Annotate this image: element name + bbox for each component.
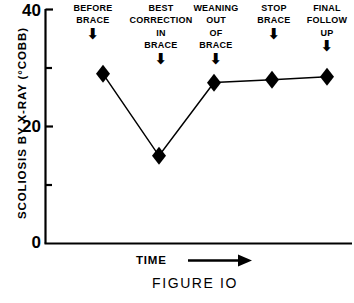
annotation-before-brace: BEFORE BRACE ⬇	[62, 2, 124, 41]
annotation-label: STOP BRACE	[246, 2, 302, 27]
time-arrow-icon	[188, 255, 252, 267]
figure-caption: FIGURE IO	[0, 275, 354, 291]
data-point-marker	[265, 71, 279, 89]
down-arrow-icon: ⬇	[190, 53, 242, 66]
annotation-label: BEFORE BRACE	[62, 2, 124, 27]
annotation-stop-brace: STOP BRACE ⬇	[246, 2, 302, 41]
annotation-final-follow-up: FINAL FOLLOW UP ⬇	[300, 2, 354, 53]
x-axis-title: TIME	[136, 254, 167, 266]
down-arrow-icon: ⬇	[122, 53, 200, 66]
down-arrow-icon: ⬇	[246, 28, 302, 41]
data-point-marker	[320, 68, 334, 86]
annotation-label: WEANING OUT OF BRACE	[190, 2, 242, 52]
annotation-weaning-out-of-brace: WEANING OUT OF BRACE ⬇	[190, 2, 242, 66]
down-arrow-icon: ⬇	[300, 40, 354, 53]
annotation-best-correction-in-brace: BEST CORRECTION IN BRACE ⬇	[122, 2, 200, 66]
annotation-label: FINAL FOLLOW UP	[300, 2, 354, 39]
annotation-label: BEST CORRECTION IN BRACE	[122, 2, 200, 52]
figure-container: SCOLIOSIS BY X-RAY (°COBB) 40 20 0 BEFOR…	[0, 0, 354, 303]
down-arrow-icon: ⬇	[62, 28, 124, 41]
